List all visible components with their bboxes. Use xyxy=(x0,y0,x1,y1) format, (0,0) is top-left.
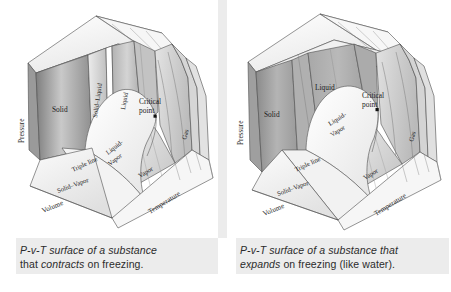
caption-line2-pre-contracts: that xyxy=(20,258,41,270)
critical-point-label-line2: point xyxy=(362,100,378,109)
caption-expands: P-v-T surface of a substance that expand… xyxy=(240,244,450,271)
axis-label-volume: Volume xyxy=(262,202,286,218)
panel-contracts: Solid Solid–Liquid Liquid Liquid- Vapor … xyxy=(0,0,225,292)
figure-root: Solid Solid–Liquid Liquid Liquid- Vapor … xyxy=(0,0,451,292)
caption-line2-em-contracts: contracts xyxy=(41,258,85,270)
critical-point-label-line2: point xyxy=(139,106,155,115)
axis-label-pressure: Pressure xyxy=(18,119,26,143)
caption-line2-em-expands: expands xyxy=(240,258,280,270)
region-label-solid: Solid xyxy=(52,105,68,114)
critical-point-label-line1: Critical xyxy=(139,97,161,106)
pvt-surface-contracts: Solid Solid–Liquid Liquid Liquid- Vapor … xyxy=(0,0,225,238)
axis-label-volume: Volume xyxy=(41,199,65,215)
critical-point-label-line1: Critical xyxy=(362,91,384,100)
caption-contracts: P-v-T surface of a substance that contra… xyxy=(20,244,216,271)
panel-expands: Solid Liquid Liquid- Vapor Vapor Gas Sol… xyxy=(226,0,451,292)
caption-line1-contracts: P-v-T surface of a substance xyxy=(20,244,157,256)
caption-line2-post-expands: on freezing (like water). xyxy=(280,258,395,270)
region-label-liquid: Liquid xyxy=(315,83,335,92)
region-label-solid: Solid xyxy=(264,110,280,119)
pvt-surface-expands: Solid Liquid Liquid- Vapor Vapor Gas Sol… xyxy=(226,0,451,238)
caption-line2-post-contracts: on freezing. xyxy=(84,258,143,270)
caption-line1-expands: P-v-T surface of a substance that xyxy=(240,244,398,256)
axis-label-pressure: Pressure xyxy=(237,121,245,145)
